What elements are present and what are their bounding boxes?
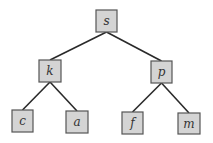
- node-label: p: [158, 65, 166, 79]
- edge-p-f: [133, 83, 162, 112]
- edge-k-a: [50, 82, 77, 111]
- tree-node-c: c: [12, 110, 33, 132]
- edge-k-c: [23, 82, 51, 110]
- node-label: k: [46, 64, 53, 78]
- node-label: m: [183, 117, 194, 131]
- node-label: s: [103, 14, 109, 28]
- edge-s-p: [107, 32, 162, 61]
- node-label: c: [19, 114, 26, 128]
- tree-diagram: skpcafm: [0, 0, 213, 143]
- nodes: skpcafm: [12, 10, 200, 134]
- tree-node-s: s: [96, 10, 117, 32]
- tree-node-f: f: [122, 112, 143, 134]
- edge-s-k: [50, 32, 107, 60]
- tree-node-p: p: [151, 61, 172, 83]
- tree-node-a: a: [66, 111, 88, 133]
- tree-node-m: m: [178, 113, 200, 134]
- node-label: a: [73, 115, 80, 129]
- tree-node-k: k: [39, 60, 61, 82]
- edge-p-m: [162, 83, 190, 113]
